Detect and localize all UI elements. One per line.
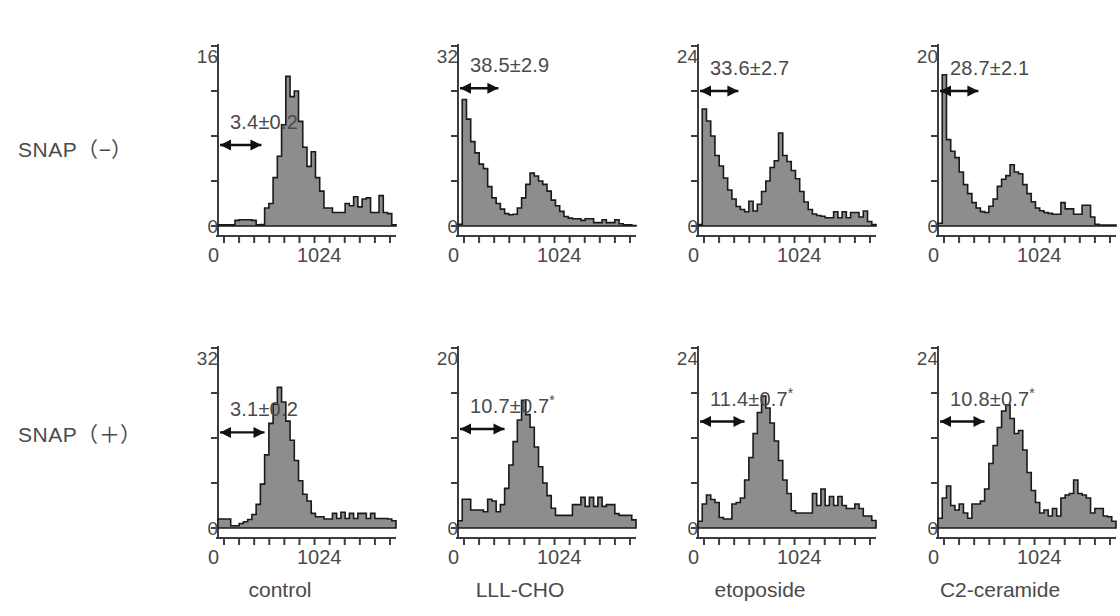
y-axis-zero-label: 0 — [927, 518, 938, 540]
figure-canvas: SNAP（−） SNAP（＋） 160010243.4±0.2320010243… — [0, 0, 1120, 616]
y-axis-zero-label: 0 — [207, 518, 218, 540]
histogram-panel: 320010243.1±0.2 — [160, 340, 400, 590]
x-axis-max-label: 1024 — [297, 546, 342, 569]
row-label-snap-negative: SNAP（−） — [18, 133, 133, 163]
statistic-annotation: 11.4±0.7* — [710, 388, 793, 411]
gate-arrow-head-right — [250, 140, 261, 151]
x-axis-max-label: 1024 — [537, 546, 582, 569]
histogram-trace — [938, 75, 1116, 226]
statistic-annotation: 3.4±0.2 — [230, 111, 298, 134]
y-axis-zero-label: 0 — [687, 216, 698, 238]
gate-arrow-head-left — [700, 86, 711, 97]
significance-star: * — [549, 392, 555, 408]
statistic-annotation: 28.7±2.1 — [950, 57, 1029, 80]
histogram-trace — [938, 405, 1116, 528]
significance-star: * — [1029, 385, 1035, 401]
x-axis-min-label: 0 — [208, 546, 219, 569]
gate-arrow-head-left — [700, 416, 711, 427]
y-axis-max-label: 32 — [437, 46, 458, 68]
statistic-annotation: 33.6±2.7 — [710, 57, 789, 80]
gate-arrow-head-right — [974, 416, 985, 427]
x-axis-max-label: 1024 — [777, 546, 822, 569]
gate-arrow-head-right — [734, 416, 745, 427]
x-axis-min-label: 0 — [928, 244, 939, 267]
significance-star: * — [788, 385, 794, 401]
y-axis-zero-label: 0 — [927, 216, 938, 238]
y-axis-max-label: 24 — [917, 348, 938, 370]
x-axis-max-label: 1024 — [1017, 546, 1062, 569]
y-axis-max-label: 16 — [197, 46, 218, 68]
y-axis-max-label: 24 — [677, 348, 698, 370]
gate-arrow-head-left — [460, 83, 471, 94]
column-caption-c2-ceramide: C2-ceramide — [880, 578, 1120, 602]
gate-arrow-head-left — [940, 416, 951, 427]
statistic-annotation: 3.1±0.2 — [230, 398, 298, 421]
y-axis-zero-label: 0 — [447, 216, 458, 238]
histogram-plot — [880, 340, 1120, 590]
y-axis-max-label: 20 — [917, 46, 938, 68]
statistic-annotation: 10.8±0.7* — [950, 388, 1035, 411]
y-axis-zero-label: 0 — [207, 216, 218, 238]
column-caption-etoposide: etoposide — [640, 578, 880, 602]
x-axis-max-label: 1024 — [537, 244, 582, 267]
gate-arrow-head-left — [460, 424, 471, 435]
x-axis-max-label: 1024 — [297, 244, 342, 267]
column-caption-lll-cho: LLL-CHO — [400, 578, 640, 602]
histogram-panel: 160010243.4±0.2 — [160, 38, 400, 288]
histogram-plot — [160, 38, 400, 288]
column-caption-control: control — [160, 578, 400, 602]
histogram-trace — [458, 99, 636, 226]
row-label-snap-positive: SNAP（＋） — [18, 418, 142, 448]
gate-arrow-head-right — [967, 86, 978, 97]
histogram-panel: 2400102410.8±0.7* — [880, 340, 1120, 590]
x-axis-min-label: 0 — [208, 244, 219, 267]
gate-arrow-head-left — [220, 427, 231, 438]
histogram-trace — [698, 396, 876, 528]
x-axis-min-label: 0 — [688, 546, 699, 569]
histogram-plot — [640, 340, 880, 590]
x-axis-max-label: 1024 — [777, 244, 822, 267]
histogram-trace — [698, 109, 876, 226]
histogram-plot — [160, 340, 400, 590]
histogram-panel: 2000102428.7±2.1 — [880, 38, 1120, 288]
histogram-plot — [400, 340, 640, 590]
x-axis-min-label: 0 — [688, 244, 699, 267]
histogram-panel: 2400102411.4±0.7* — [640, 340, 880, 590]
x-axis-min-label: 0 — [448, 546, 459, 569]
histogram-panel: 2400102433.6±2.7 — [640, 38, 880, 288]
gate-arrow-head-left — [220, 140, 231, 151]
y-axis-max-label: 24 — [677, 46, 698, 68]
y-axis-zero-label: 0 — [447, 518, 458, 540]
x-axis-min-label: 0 — [928, 546, 939, 569]
gate-arrow-head-right — [254, 427, 265, 438]
gate-arrow-head-right — [494, 424, 505, 435]
histogram-trace — [218, 76, 396, 226]
statistic-annotation: 38.5±2.9 — [470, 54, 549, 77]
gate-arrow-head-right — [727, 86, 738, 97]
y-axis-zero-label: 0 — [687, 518, 698, 540]
histogram-panel: 2000102410.7±0.7* — [400, 340, 640, 590]
y-axis-max-label: 32 — [197, 348, 218, 370]
gate-arrow-head-right — [487, 83, 498, 94]
statistic-annotation: 10.7±0.7* — [470, 395, 555, 418]
x-axis-max-label: 1024 — [1017, 244, 1062, 267]
x-axis-min-label: 0 — [448, 244, 459, 267]
histogram-panel: 3200102438.5±2.9 — [400, 38, 640, 288]
y-axis-max-label: 20 — [437, 348, 458, 370]
histogram-trace — [458, 400, 636, 528]
